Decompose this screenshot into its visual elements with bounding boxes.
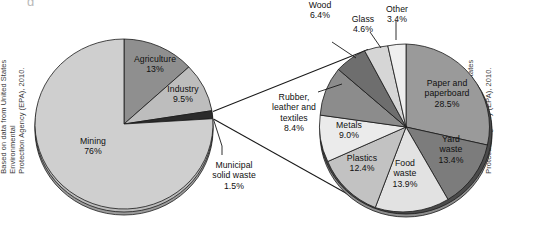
label-wood: Wood 6.4% — [297, 0, 343, 21]
label-other: Other 3.4% — [375, 4, 419, 25]
left-leader-line-msw — [214, 120, 223, 156]
label-municipal-solid-waste: Municipal solid waste 1.5% — [196, 160, 272, 191]
label-agriculture: Agriculture 13% — [118, 54, 192, 75]
label-industry: Industry 9.5% — [152, 84, 214, 105]
label-plastics: Plastics 12.4% — [336, 153, 388, 174]
right-leader-line-wood — [332, 42, 356, 58]
label-mining: Mining 76% — [62, 136, 124, 157]
label-metals: Metals 9.0% — [325, 120, 373, 141]
label-paper-and-paperboard: Paper and paperboard 28.5% — [413, 78, 481, 109]
label-food-waste: Food waste 13.9% — [383, 158, 427, 189]
label-rubber-leather-textiles: Rubber, leather and textiles 8.4% — [259, 92, 329, 134]
label-yard-waste: Yard waste 13.4% — [429, 134, 473, 165]
figure-container: g Based on data from United States Envir… — [0, 0, 545, 238]
